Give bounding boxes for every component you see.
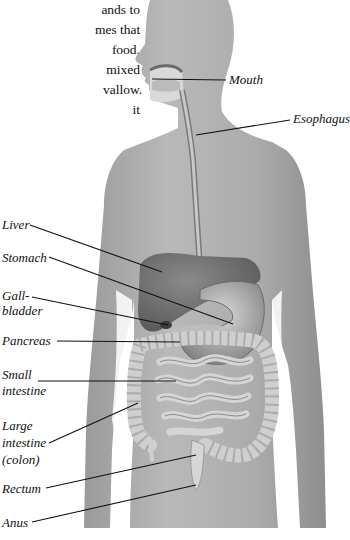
label-esophagus: Esophagus (293, 111, 350, 127)
label-pancreas: Pancreas (2, 333, 51, 349)
label-stomach: Stomach (2, 250, 47, 266)
label-gallbladder-line1: Gall- (2, 288, 29, 304)
label-anus: Anus (2, 515, 28, 531)
label-large-intestine-line2: intestine (2, 435, 46, 451)
label-liver: Liver (2, 217, 29, 233)
label-small-intestine-line1: Small (2, 367, 32, 383)
label-rectum: Rectum (2, 481, 41, 497)
label-gallbladder-line2: bladder (2, 303, 42, 319)
label-large-intestine-line3: (colon) (2, 452, 40, 468)
label-small-intestine-line2: intestine (2, 383, 46, 399)
label-mouth: Mouth (229, 72, 263, 88)
label-large-intestine-line1: Large (2, 418, 33, 434)
